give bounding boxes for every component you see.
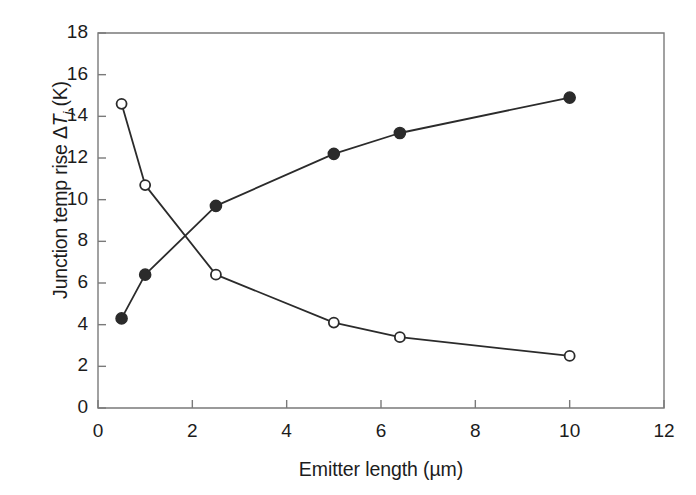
data-point-open [140,180,150,190]
series-line-open-circle-series [122,104,570,356]
data-point-filled [140,269,151,280]
data-point-open [565,351,575,361]
series-group [116,92,575,361]
series-line-filled-circle-series [122,98,570,319]
chart-figure: Junction temp rise ΔTj (K) Emitter lengt… [0,0,696,495]
data-point-open [211,270,221,280]
data-point-open [395,332,405,342]
data-point-filled [210,200,221,211]
data-point-filled [564,92,575,103]
data-point-open [329,318,339,328]
data-point-filled [116,313,127,324]
axes-group [98,33,664,408]
data-point-filled [394,127,405,138]
data-point-filled [328,148,339,159]
data-point-open [117,99,127,109]
plot-frame [98,33,664,408]
plot-area [0,0,696,495]
